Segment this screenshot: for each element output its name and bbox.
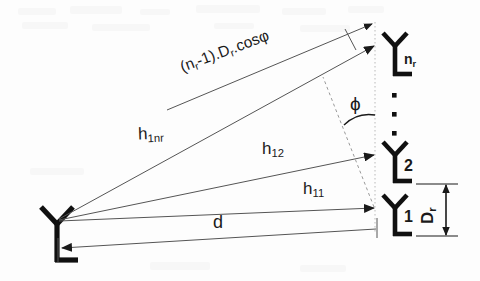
angle-label: ϕ: [350, 94, 361, 113]
receive-antenna-1-label: 1: [404, 209, 413, 225]
channel-label-h11: h11: [303, 180, 324, 199]
wavefront-perpendicular-line: [323, 77, 374, 207]
transmit-antenna: [41, 207, 78, 262]
channel-label-h12: h12: [262, 140, 284, 159]
distance-label: d: [213, 213, 223, 231]
channel-ray-h1nr: [59, 46, 374, 219]
angle-arc: [344, 115, 375, 125]
antenna-ellipsis-dots: [392, 93, 397, 136]
spacing-label: Dr: [419, 207, 438, 224]
antenna-array-diagram: h11 h12 h1nr d (nr-1).Dr.cosφ ϕ Dr nr 2 …: [0, 0, 480, 281]
receive-antenna-2-label: 2: [404, 158, 413, 174]
path-difference-tick: [345, 29, 356, 50]
channel-label-h1nr: h1nr: [138, 125, 164, 145]
receive-antenna-nr-label: nr: [404, 52, 416, 69]
